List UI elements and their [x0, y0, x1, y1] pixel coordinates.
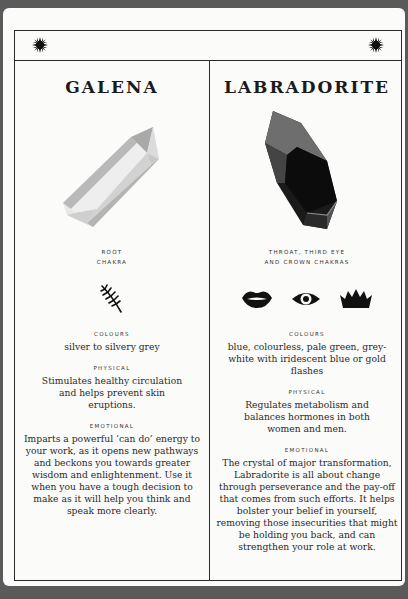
chakra-line: THROAT, THIRD EYE — [210, 247, 404, 257]
crystal-title: GALENA — [15, 77, 209, 97]
chakra-label: THROAT, THIRD EYE AND CROWN CHAKRAS — [210, 247, 404, 267]
physical-label: PHYSICAL — [210, 389, 404, 395]
root-sprig-icon — [97, 282, 127, 316]
physical-text: Regulates metabolism and balances hormon… — [230, 399, 384, 435]
galena-column: GALENA ROOT CHAKRA — [15, 61, 209, 580]
dark-crystal-illustration — [257, 103, 357, 239]
emotional-text: The crystal of major transformation, Lab… — [216, 457, 398, 553]
chakra-symbols — [210, 279, 404, 319]
sun-icon — [32, 37, 48, 53]
emotional-text: Imparts a powerful ‘can do’ energy to yo… — [21, 433, 203, 517]
labradorite-crystal-image — [210, 103, 404, 241]
labradorite-column: LABRADORITE THROAT, THIRD EYE AND CROWN … — [210, 61, 404, 580]
chakra-line: ROOT — [15, 247, 209, 257]
galena-crystal-image — [15, 103, 209, 241]
colours-label: COLOURS — [210, 331, 404, 337]
card-frame: GALENA ROOT CHAKRA — [14, 30, 402, 581]
physical-label: PHYSICAL — [15, 365, 209, 371]
card-header — [15, 31, 401, 61]
colours-text: silver to silvery grey — [25, 341, 199, 353]
crescent-moon-icon — [199, 37, 217, 55]
emotional-label: EMOTIONAL — [210, 447, 404, 453]
chakra-label: ROOT CHAKRA — [15, 247, 209, 267]
crystal-point-illustration — [47, 103, 177, 239]
colours-label: COLOURS — [15, 331, 209, 337]
chakra-line: AND CROWN CHAKRAS — [210, 257, 404, 267]
third-eye-icon — [291, 290, 321, 308]
crystal-card: GALENA ROOT CHAKRA — [3, 8, 405, 586]
crystal-title: LABRADORITE — [210, 77, 404, 97]
sun-icon — [368, 37, 384, 53]
crown-icon — [339, 289, 373, 309]
colours-text: blue, colourless, pale green, grey-white… — [220, 341, 394, 377]
physical-text: Stimulates healthy circulation and helps… — [39, 375, 185, 411]
emotional-label: EMOTIONAL — [15, 423, 209, 429]
chakra-symbols — [15, 279, 209, 319]
lips-icon — [241, 289, 273, 309]
chakra-line: CHAKRA — [15, 257, 209, 267]
